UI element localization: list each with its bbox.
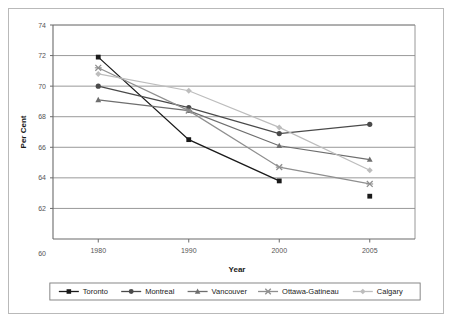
- line-chart: 7472706866646260 1980199020002005 Per Ce…: [0, 0, 452, 322]
- y-tick-label-70: 70: [38, 83, 46, 90]
- data-point-1980: [95, 65, 102, 71]
- data-point-1990: [186, 88, 192, 94]
- x-tick-label-1990: 1990: [181, 247, 197, 254]
- data-point-1990: [186, 137, 191, 142]
- data-series-layer: [95, 55, 373, 199]
- axis-lines: [53, 25, 415, 239]
- series-line: [98, 68, 370, 184]
- x-tick-label-1980: 1980: [90, 247, 106, 254]
- legend-label: Toronto: [83, 287, 108, 296]
- chart-figure: 7472706866646260 1980199020002005 Per Ce…: [0, 0, 452, 322]
- y-tick-label-66: 66: [38, 144, 46, 151]
- legend-label: Montreal: [145, 287, 175, 296]
- data-point-2000: [276, 124, 282, 130]
- y-tick-label-68: 68: [38, 113, 46, 120]
- legend-marker-circle-icon: [129, 289, 134, 294]
- data-point-1980: [95, 71, 101, 77]
- x-tick-label-2005: 2005: [362, 247, 378, 254]
- data-point-1980: [96, 55, 101, 60]
- chart-legend: TorontoMontrealVancouverOttawa-GatineauC…: [50, 283, 420, 300]
- legend-label: Ottawa-Gatineau: [282, 287, 339, 296]
- y-axis-title: Per Cent: [19, 115, 28, 148]
- series-line: [98, 57, 279, 181]
- data-point-2005: [367, 122, 372, 127]
- y-tick-label-74: 74: [38, 22, 46, 29]
- data-point-2005: [367, 194, 372, 199]
- y-tick-label-62: 62: [38, 205, 46, 212]
- y-tick-label-72: 72: [38, 52, 46, 59]
- legend-label: Calgary: [377, 287, 403, 296]
- data-point-2000: [277, 131, 282, 136]
- x-tick-label-2000: 2000: [271, 247, 287, 254]
- data-point-1980: [96, 84, 101, 89]
- gridlines: [53, 25, 415, 208]
- series-ottawa-gatineau: [95, 65, 373, 187]
- y-axis-tick-labels: 7472706866646260: [38, 22, 53, 257]
- data-point-2005: [366, 181, 373, 187]
- data-point-2005: [367, 167, 373, 173]
- y-tick-label-64: 64: [38, 174, 46, 181]
- legend-marker-square-icon: [67, 289, 72, 294]
- series-line: [98, 86, 370, 133]
- data-point-1980: [95, 97, 101, 102]
- x-axis-title: Year: [229, 265, 246, 274]
- legend-label: Vancouver: [212, 287, 248, 296]
- series-line: [98, 74, 370, 170]
- data-point-2000: [277, 179, 282, 184]
- data-point-2000: [276, 164, 283, 170]
- x-axis-tick-labels: 1980199020002005: [90, 239, 377, 254]
- y-tick-label-60: 60: [38, 250, 46, 257]
